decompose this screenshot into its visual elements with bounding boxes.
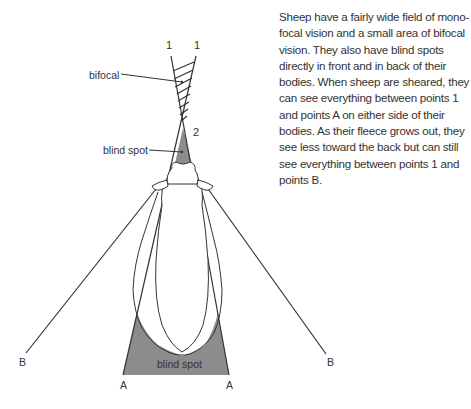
bifocal-leader-line	[121, 74, 182, 82]
caption-line: bodies. As their fleece grows out, they	[279, 123, 471, 139]
caption-line: directly in front and in back of their	[279, 58, 471, 74]
sight-line-b-right	[206, 186, 326, 354]
blind-spot-leader-line	[149, 150, 182, 152]
label-blind-spot-front: blind spot	[103, 144, 148, 156]
label-bifocal: bifocal	[89, 69, 119, 81]
caption-line: vision. They also have blind spots	[279, 42, 471, 58]
caption-line: see less toward the back but can still	[279, 139, 471, 155]
label-point-b-right: B	[327, 356, 334, 368]
caption-line: and points A on either side of their	[279, 107, 471, 123]
sheep-head	[167, 162, 198, 184]
label-point-b-left: B	[19, 356, 26, 368]
label-point-1-right: 1	[194, 39, 200, 51]
label-blind-spot-back: blind spot	[157, 358, 202, 370]
caption-line: see everything between points 1 and	[279, 156, 471, 172]
caption-text: Sheep have a fairly wide field of mono- …	[279, 9, 471, 188]
caption-line: points B.	[279, 172, 471, 188]
sheep-body-outline	[156, 178, 209, 352]
caption-line: can see everything between points 1	[279, 90, 471, 106]
caption-line: bodies. When sheep are sheared, they	[279, 74, 471, 90]
label-point-1-left: 1	[166, 39, 172, 51]
label-point-2: 2	[193, 126, 199, 138]
label-point-a-right: A	[226, 379, 233, 391]
label-point-a-left: A	[120, 379, 127, 391]
caption-line: focal vision and a small area of bifocal	[279, 25, 471, 41]
caption-line: Sheep have a fairly wide field of mono-	[279, 9, 471, 25]
